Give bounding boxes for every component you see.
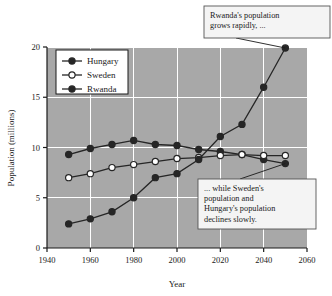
data-point <box>87 171 93 177</box>
x-tick-label-1960: 1960 <box>82 255 99 265</box>
legend-label: Rwanda <box>87 84 117 94</box>
y-axis-label: Population (millions) <box>6 110 16 187</box>
callout-line: grows rapidly, ... <box>210 21 266 30</box>
population-line-chart: 05101520 1940196019802000202020402060 Po… <box>0 0 332 296</box>
data-point <box>217 133 223 139</box>
legend-label: Hungary <box>87 56 119 66</box>
data-point <box>261 152 267 158</box>
data-point <box>152 141 158 147</box>
x-axis-label: Year <box>169 279 186 289</box>
legend: HungarySwedenRwanda <box>56 50 128 94</box>
legend-marker <box>69 58 75 64</box>
x-axis-ticks <box>47 248 307 252</box>
x-tick-label-2040: 2040 <box>255 255 272 265</box>
legend-marker <box>69 72 75 78</box>
decline-callout: ... while Sweden'spopulation andHungary'… <box>198 179 316 229</box>
data-point <box>109 141 115 147</box>
callout-line: Hungary's population <box>204 204 276 213</box>
data-point <box>109 209 115 215</box>
x-axis-tick-labels: 1940196019802000202020402060 <box>39 255 316 265</box>
data-point <box>152 175 158 181</box>
callout-line: Rwanda's population <box>210 11 280 20</box>
data-point <box>66 221 72 227</box>
legend-label: Sweden <box>87 70 116 80</box>
callout-line: population and <box>204 194 254 203</box>
y-tick-label-15: 15 <box>32 92 41 102</box>
data-point <box>174 142 180 148</box>
y-tick-label-0: 0 <box>36 243 40 253</box>
y-tick-label-10: 10 <box>32 143 41 153</box>
x-tick-label-2060: 2060 <box>299 255 316 265</box>
data-point <box>196 156 202 162</box>
data-point <box>174 155 180 161</box>
data-point <box>87 145 93 151</box>
data-point <box>131 195 137 201</box>
data-point <box>131 137 137 143</box>
callout-line: ... while Sweden's <box>204 184 264 193</box>
data-point <box>196 146 202 152</box>
data-point <box>239 121 245 127</box>
data-point <box>282 160 288 166</box>
data-point <box>239 151 245 157</box>
x-tick-label-2000: 2000 <box>169 255 186 265</box>
data-point <box>131 161 137 167</box>
data-point <box>87 216 93 222</box>
x-tick-label-1940: 1940 <box>39 255 56 265</box>
data-point <box>217 152 223 158</box>
rwanda-callout: Rwanda's populationgrows rapidly, ... <box>204 6 330 38</box>
data-point <box>109 165 115 171</box>
data-point <box>174 171 180 177</box>
data-point <box>66 175 72 181</box>
y-tick-label-5: 5 <box>36 193 40 203</box>
x-tick-label-2020: 2020 <box>212 255 229 265</box>
legend-marker <box>69 86 75 92</box>
x-tick-label-1980: 1980 <box>125 255 142 265</box>
data-point <box>261 84 267 90</box>
y-axis-tick-labels: 05101520 <box>32 42 41 253</box>
chart-svg: 05101520 1940196019802000202020402060 Po… <box>0 0 332 296</box>
data-point <box>66 151 72 157</box>
callout-line: declines slowly. <box>204 215 257 224</box>
data-point <box>282 152 288 158</box>
data-point <box>152 158 158 164</box>
y-tick-label-20: 20 <box>32 42 41 52</box>
